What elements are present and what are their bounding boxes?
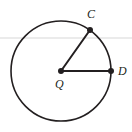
point-label-d: D	[118, 65, 127, 77]
point-label-q: Q	[55, 78, 64, 90]
circle-geometry-diagram: C D Q	[0, 0, 132, 132]
point-label-c: C	[87, 8, 95, 20]
point-marker-c	[87, 27, 93, 33]
point-marker-d	[108, 68, 114, 74]
diagram-canvas	[0, 0, 132, 132]
radius-segment-qc	[61, 30, 90, 71]
point-marker-q	[58, 68, 64, 74]
